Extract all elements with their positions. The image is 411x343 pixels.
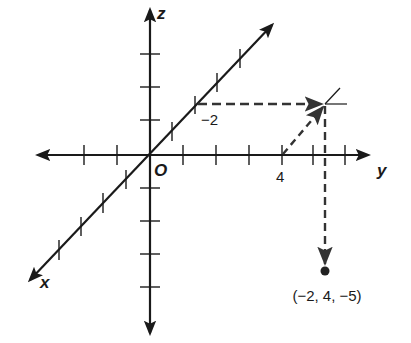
y-axis-label: y	[376, 161, 388, 180]
origin-label: O	[154, 161, 167, 180]
z-axis-label: z	[156, 4, 166, 23]
coordinate-diagram: z y x O −2 4 (−2, 4, −5)	[0, 0, 411, 343]
guide-line-x-parallel	[325, 88, 340, 104]
x-axis-label: x	[39, 273, 51, 292]
dashed-path-along-x	[283, 107, 323, 154]
plotted-point	[321, 267, 330, 276]
y-tick-label: 4	[276, 168, 284, 185]
x-tick-label: −2	[201, 111, 218, 128]
point-label: (−2, 4, −5)	[292, 287, 361, 304]
